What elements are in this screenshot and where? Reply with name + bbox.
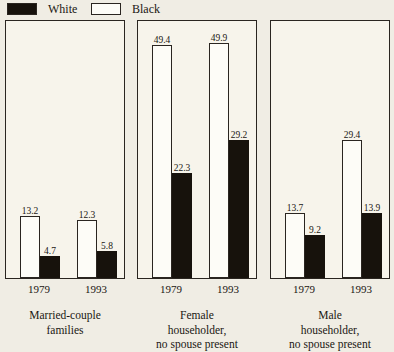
bar-value-black-1979: 4.7 [33, 246, 67, 256]
plot-frame: 13.79.229.413.9 [270, 20, 390, 279]
bar-black-1993 [229, 140, 249, 278]
bar-value-black-1993: 13.9 [355, 203, 389, 213]
chart-legend: White Black [0, 0, 394, 18]
bar-black-1979 [305, 235, 325, 278]
panel-caption: Married-couplefamilies [0, 308, 139, 337]
x-axis-label-1979: 1979 [282, 283, 326, 295]
x-axis-label-1993: 1993 [206, 283, 250, 295]
bar-value-white-1993: 12.3 [70, 210, 104, 220]
chart-panels: 13.24.712.35.8 19791993Married-couplefam… [0, 20, 394, 352]
panel-caption-line: Married-couple [0, 308, 139, 323]
panel-caption-line: families [0, 323, 139, 338]
bar-black-1979 [172, 173, 192, 278]
panel-caption-line: no spouse present [123, 337, 271, 352]
x-axis-label-1979: 1979 [17, 283, 61, 295]
bar-value-black-1979: 9.2 [298, 225, 332, 235]
panel-caption: Femalehouseholder,no spouse present [123, 308, 271, 352]
bar-black-1979 [40, 256, 60, 278]
bar-white-1993 [209, 43, 229, 278]
legend-entry-white: White [7, 0, 77, 18]
bar-white-1979 [152, 45, 172, 278]
bar-black-1993 [362, 213, 382, 278]
bar-value-white-1993: 29.4 [335, 130, 369, 140]
legend-swatch-white [7, 3, 37, 15]
legend-swatch-black [91, 3, 121, 15]
bar-white-1979 [285, 213, 305, 278]
panel-caption-line: householder, [123, 323, 271, 338]
panel-caption-line: Female [123, 308, 271, 323]
bar-value-black-1993: 29.2 [222, 130, 256, 140]
plot-frame: 49.422.349.929.2 [137, 20, 257, 279]
bar-value-black-1993: 5.8 [90, 241, 124, 251]
bar-value-black-1979: 22.3 [165, 163, 199, 173]
panel-caption: Malehouseholder,no spouse present [256, 308, 394, 352]
bar-value-white-1979: 13.7 [278, 203, 312, 213]
plot-frame: 13.24.712.35.8 [5, 20, 125, 279]
legend-label-white: White [48, 3, 77, 15]
bar-black-1993 [97, 251, 117, 278]
x-axis-label-1993: 1993 [339, 283, 383, 295]
bar-value-white-1979: 49.4 [145, 35, 179, 45]
panel-caption-line: Male [256, 308, 394, 323]
panel-caption-line: householder, [256, 323, 394, 338]
bar-value-white-1993: 49.9 [202, 33, 236, 43]
panel-caption-line: no spouse present [256, 337, 394, 352]
bar-value-white-1979: 13.2 [13, 206, 47, 216]
legend-entry-black: Black [91, 0, 160, 18]
x-axis-label-1979: 1979 [149, 283, 193, 295]
legend-label-black: Black [132, 3, 160, 15]
x-axis-label-1993: 1993 [74, 283, 118, 295]
